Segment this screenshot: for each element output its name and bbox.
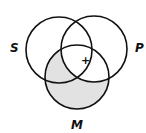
- label-p: P: [135, 41, 144, 55]
- label-s: S: [10, 41, 19, 55]
- venn-diagram: + S P M: [0, 0, 146, 133]
- label-m: M: [71, 118, 83, 132]
- plus-marker: +: [81, 54, 90, 67]
